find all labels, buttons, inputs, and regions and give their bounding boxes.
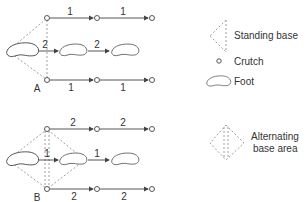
step-label: 2: [94, 39, 100, 50]
standing-base-icon: [210, 20, 226, 52]
foot-icons: [7, 152, 139, 166]
panel-a: 1 1 2 2 1 1 A: [7, 6, 155, 94]
step-label: 1: [44, 148, 50, 159]
step-label: 1: [68, 82, 74, 93]
panel-label: A: [34, 83, 41, 94]
legend-crutch: Crutch: [234, 56, 263, 67]
crutch-icon: [150, 127, 155, 132]
legend-alternating-line2: base area: [253, 143, 298, 154]
step-label: 1: [120, 82, 126, 93]
panel-b: 2 2 1 1 2 2 B: [7, 117, 155, 202]
step-label: 2: [121, 191, 127, 202]
crutch-icon: [45, 78, 50, 83]
crutch-icon: [45, 127, 50, 132]
step-label: 1: [67, 6, 73, 17]
foot-icon: [60, 153, 87, 165]
legend-alternating-line1: Alternating: [251, 131, 299, 142]
legend-foot: Foot: [234, 76, 254, 87]
step-label: 1: [120, 6, 126, 17]
foot-icon: [112, 44, 139, 56]
foot-icon: [112, 153, 139, 165]
foot-icon: [7, 152, 39, 166]
panel-label: B: [34, 192, 41, 202]
step-label: 2: [71, 191, 77, 202]
foot-icon: [60, 44, 87, 56]
crutch-icon: [150, 16, 155, 21]
foot-icon: [7, 43, 39, 57]
crutch-icon: [95, 127, 100, 132]
step-label: 2: [70, 117, 76, 128]
crutch-icon: [95, 16, 100, 21]
crutch-icon: [45, 16, 50, 21]
foot-icons: [7, 43, 139, 57]
crutch-icon: [95, 187, 100, 192]
step-label: 2: [120, 117, 126, 128]
legend: Standing base Crutch Foot Alternating ba…: [207, 20, 299, 160]
legend-standing-base: Standing base: [234, 30, 298, 41]
crutch-icon: [217, 59, 221, 63]
foot-icon: [207, 76, 231, 86]
crutch-gait-diagram: 1 1 2 2 1 1 A: [0, 0, 307, 202]
crutch-icon: [150, 187, 155, 192]
crutch-icon: [95, 78, 100, 83]
crutch-icon: [45, 187, 50, 192]
alternating-base-icon: [210, 125, 244, 160]
step-label: 1: [94, 148, 100, 159]
crutch-icon: [150, 78, 155, 83]
step-label: 2: [42, 39, 48, 50]
